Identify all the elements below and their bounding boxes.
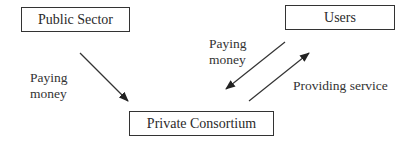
edge-label-line: money	[30, 86, 68, 102]
edge-label-line: Providing service	[293, 78, 388, 93]
node-private-consortium: Private Consortium	[129, 111, 274, 136]
node-label: Public Sector	[38, 12, 113, 28]
edge-label-line: Paying	[209, 36, 247, 52]
edge-label-providing-service: Providing service	[293, 78, 388, 94]
node-label: Private Consortium	[147, 116, 256, 132]
edge-label-line: Paying	[30, 70, 68, 86]
edge-label-public-paying-money: Paying money	[30, 70, 68, 102]
edge-label-users-paying-money: Paying money	[209, 36, 247, 68]
node-label: Users	[324, 10, 356, 26]
edge-label-line: money	[209, 52, 247, 68]
node-users: Users	[285, 5, 395, 30]
arrow-public-to-consortium	[80, 53, 128, 101]
node-public-sector: Public Sector	[21, 7, 130, 32]
